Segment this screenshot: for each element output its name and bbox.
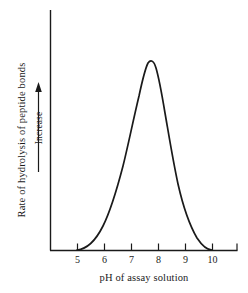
chart-figure: Rate of hydrolysis of peptide bonds Incr… (0, 0, 248, 293)
chart-background (0, 0, 248, 293)
chart-svg (0, 0, 248, 293)
